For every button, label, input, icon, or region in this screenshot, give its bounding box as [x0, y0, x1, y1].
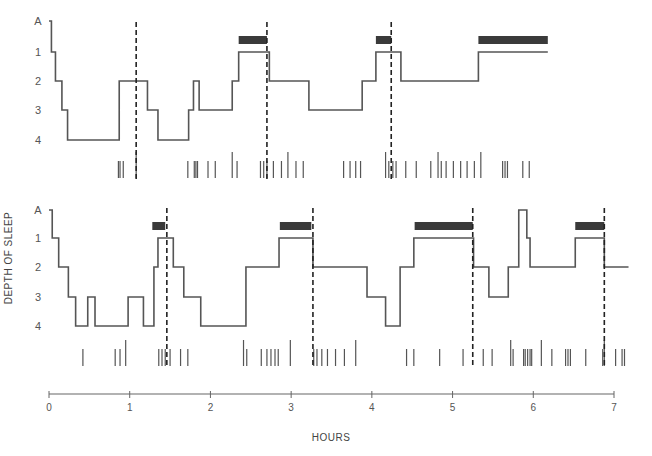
y-tick-label: 1: [35, 46, 41, 58]
y-tick-label: 2: [35, 75, 41, 87]
x-axis: 01234567: [46, 391, 617, 413]
rem-bar: [239, 36, 267, 44]
y-tick-label: A: [34, 204, 42, 216]
y-tick-label: 4: [35, 134, 41, 146]
y-tick-label: 3: [35, 291, 41, 303]
rem-bar: [376, 36, 391, 44]
y-tick-label: 4: [35, 320, 41, 332]
x-tick-label: 2: [208, 402, 214, 413]
x-tick-label: 5: [450, 402, 456, 413]
y-axis-label: DEPTH OF SLEEP: [3, 212, 14, 305]
y-tick-label: 1: [35, 232, 41, 244]
x-tick-label: 1: [127, 402, 133, 413]
hypnogram-panel-night-2: A1234: [34, 204, 628, 368]
x-tick-label: 3: [288, 402, 294, 413]
x-tick-label: 0: [46, 402, 52, 413]
rem-bar: [478, 36, 547, 44]
x-tick-label: 4: [369, 402, 375, 413]
rem-bar: [575, 222, 604, 230]
rem-bar: [415, 222, 473, 230]
rem-bar: [152, 222, 165, 230]
x-tick-label: 7: [611, 402, 617, 413]
y-tick-label: A: [34, 15, 42, 27]
hypnogram-panel-night-1: A1234: [34, 15, 547, 180]
rem-bar: [280, 222, 311, 230]
x-tick-label: 6: [531, 402, 537, 413]
sleep-hypnogram-chart: DEPTH OF SLEEP A1234 A1234 01234567 HOUR…: [0, 0, 652, 456]
sleep-depth-line: [49, 21, 548, 140]
sleep-depth-line: [49, 210, 629, 326]
y-axis-title: DEPTH OF SLEEP: [3, 212, 14, 305]
x-axis-label: HOURS: [312, 432, 351, 443]
y-tick-label: 3: [35, 104, 41, 116]
y-tick-label: 2: [35, 261, 41, 273]
